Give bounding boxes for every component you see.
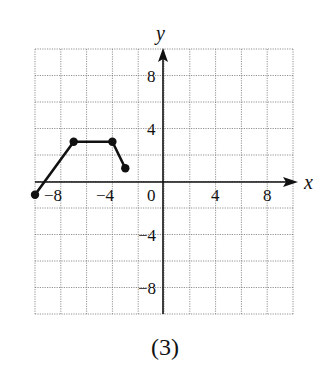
- y-tick-label: −4: [138, 226, 157, 245]
- origin-label: 0: [147, 186, 156, 205]
- y-tick-label: 8: [147, 67, 156, 86]
- x-axis-label: x: [303, 171, 313, 193]
- closed-point-icon: [31, 191, 39, 199]
- closed-point-icon: [70, 138, 78, 146]
- x-tick-label: −8: [44, 186, 62, 205]
- x-tick-label: 8: [263, 186, 272, 205]
- y-axis: [158, 48, 168, 314]
- y-tick-label: −8: [138, 279, 156, 298]
- x-axis: [35, 177, 298, 187]
- coordinate-plane: x y −8 −4 0 4 8 8 4 −4 −8: [0, 0, 330, 369]
- closed-point-icon: [121, 164, 129, 172]
- closed-point-icon: [108, 138, 116, 146]
- y-axis-label: y: [154, 22, 165, 45]
- y-tick-label: 4: [147, 120, 156, 139]
- x-tick-label: 4: [211, 186, 220, 205]
- x-tick-label: −4: [96, 186, 115, 205]
- figure-caption: (3): [0, 334, 330, 361]
